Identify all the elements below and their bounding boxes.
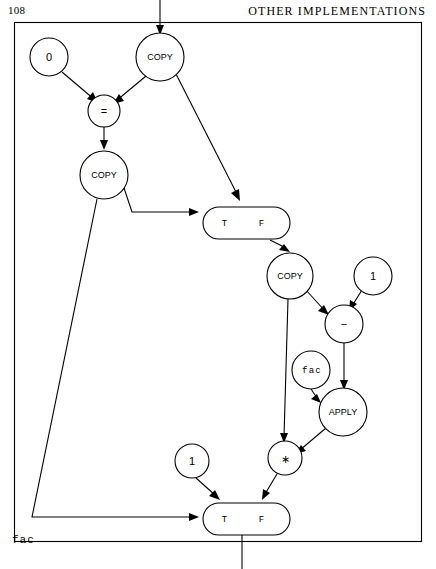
edge-copy3-to-times: [284, 299, 288, 437]
edge-times-to-switch2: [265, 474, 277, 494]
node-minus-label: −: [341, 318, 347, 330]
edge-copy2-to-switch2: [32, 199, 192, 517]
edge-copy1-to-switch1: [176, 74, 238, 196]
edge-copy2-to-switch1: [124, 188, 192, 212]
node-copy-2-label: COPY: [91, 170, 117, 180]
arrowhead-copy1-switch1: [231, 189, 240, 201]
node-times-label: ∗: [281, 453, 290, 465]
node-apply-label: APPLY: [329, 407, 357, 417]
node-switch-2[interactable]: [203, 503, 290, 535]
arrowhead-copy2-switch2: [189, 513, 199, 521]
arrowhead-copy2-switch1: [189, 208, 199, 216]
arrowhead-copy3-minus: [318, 305, 329, 315]
figure-caption-fac: fac: [12, 534, 35, 546]
book-page: 108 OTHER IMPLEMENTATIONS: [0, 0, 436, 569]
node-switch-2-false-label: F: [259, 515, 266, 525]
node-switch-2-true-label: T: [222, 515, 229, 525]
edge-one-b-to-switch2: [196, 478, 215, 495]
arrowhead-fac-apply: [311, 394, 321, 403]
arrowhead-times-switch2: [262, 489, 270, 500]
node-copy-1-label: COPY: [147, 52, 173, 62]
dataflow-diagram: 0 COPY = COPY T F COPY 1 − fac APPLY ∗: [0, 0, 436, 569]
edge-switch1-to-copy3: [270, 240, 284, 247]
node-copy-3-label: COPY: [277, 271, 303, 281]
node-fac-label: fac: [302, 366, 322, 376]
node-zero-label: 0: [46, 51, 52, 63]
node-switch-1-false-label: F: [259, 219, 266, 229]
node-switch-1-true-label: T: [222, 219, 229, 229]
node-switch-1[interactable]: [203, 207, 290, 239]
node-equals-label: =: [101, 105, 107, 117]
arrowhead-eq-copy2: [100, 140, 108, 150]
node-one-a-label: 1: [370, 270, 376, 282]
edge-apply-to-times: [300, 428, 326, 450]
node-one-b-label: 1: [189, 455, 195, 467]
